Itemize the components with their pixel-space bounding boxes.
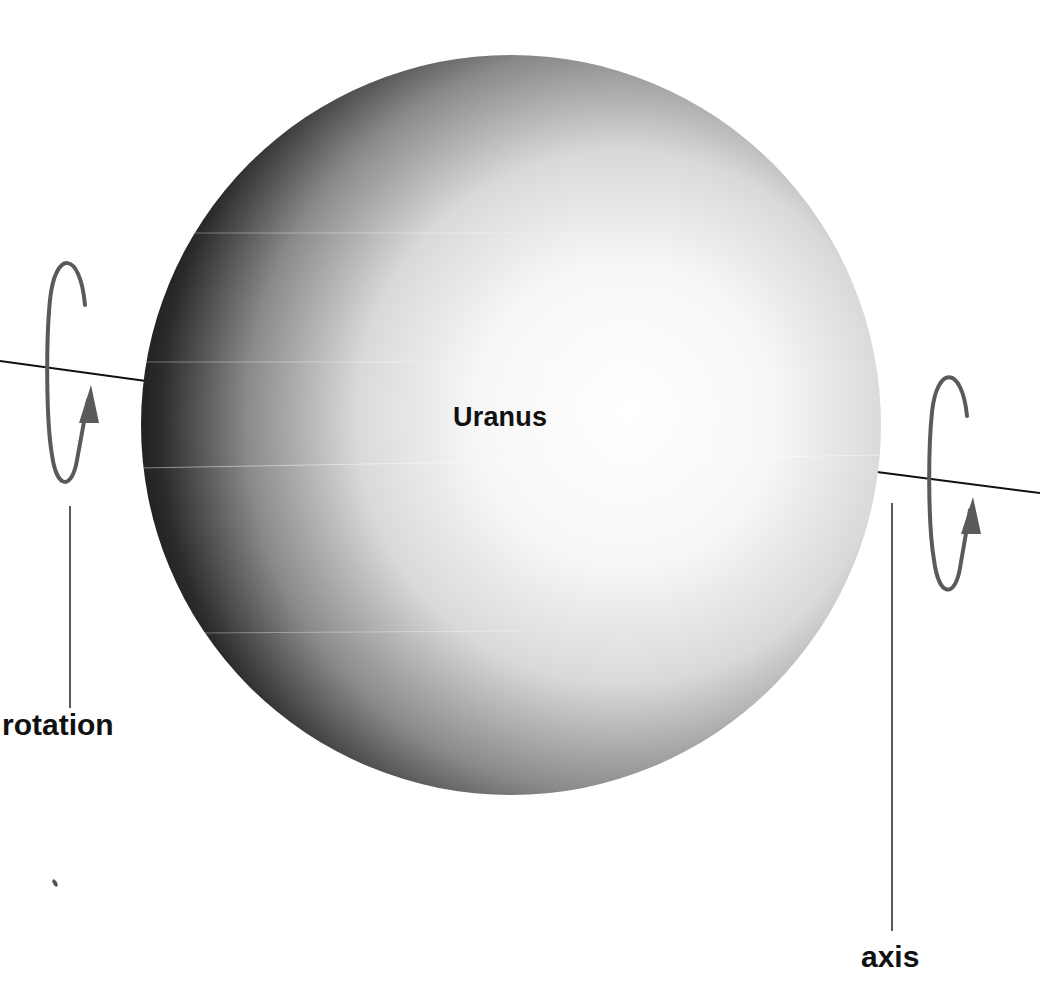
axis-label: axis (861, 940, 919, 974)
stray-mark (51, 879, 58, 888)
planet-name-label: Uranus (453, 402, 547, 433)
diagram-canvas (0, 0, 1040, 1007)
rotation-label: rotation (2, 708, 114, 742)
uranus-rotation-diagram: Uranus rotation axis (0, 0, 1040, 1007)
